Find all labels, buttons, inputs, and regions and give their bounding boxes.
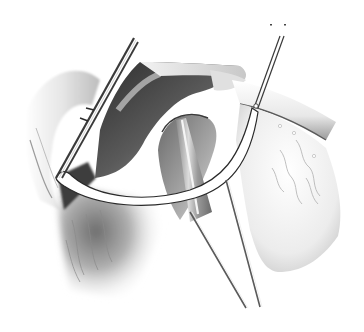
surgical-illustration — [0, 0, 364, 332]
illustration-svg — [0, 0, 364, 332]
